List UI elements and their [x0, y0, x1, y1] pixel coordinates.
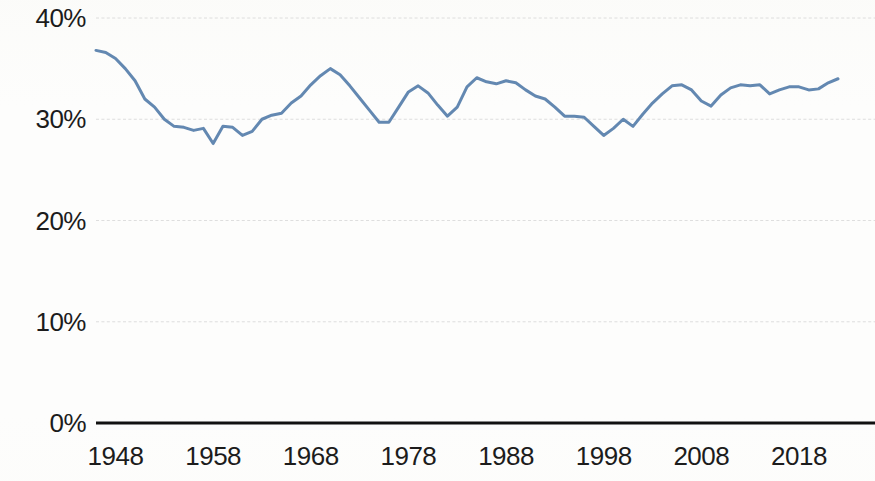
y-tick-label-20pct: 20%	[0, 205, 86, 236]
x-tick-label-1978: 1978	[380, 441, 436, 472]
x-tick-label-2018: 2018	[771, 441, 827, 472]
data-line-share	[96, 50, 838, 143]
y-tick-label-0pct: 0%	[0, 408, 86, 439]
chart-page: 0%10%20%30%40% 1948195819681978198819982…	[0, 0, 875, 481]
y-tick-label-30pct: 30%	[0, 104, 86, 135]
x-tick-label-1998: 1998	[576, 441, 632, 472]
y-tick-label-10pct: 10%	[0, 306, 86, 337]
y-tick-label-40pct: 40%	[0, 3, 86, 34]
x-tick-label-1958: 1958	[185, 441, 241, 472]
x-tick-label-1988: 1988	[478, 441, 534, 472]
chart-plot-svg	[0, 0, 875, 481]
line-chart: 0%10%20%30%40% 1948195819681978198819982…	[0, 0, 875, 481]
x-tick-label-1948: 1948	[88, 441, 144, 472]
x-tick-label-1968: 1968	[283, 441, 339, 472]
x-tick-label-2008: 2008	[673, 441, 729, 472]
